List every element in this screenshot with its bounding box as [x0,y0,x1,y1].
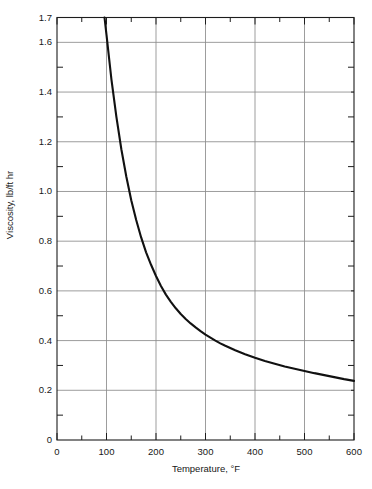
y-tick-label: 1.0 [39,187,52,197]
y-tick-label: 1.7 [39,13,52,23]
y-axis-label: Viscosity, lb/ft hr [4,171,15,239]
y-tick-label: 1.4 [39,87,52,97]
x-tick-label: 200 [148,447,164,457]
vertical-gridlines [107,18,305,441]
y-tick-label: 0.2 [39,386,52,396]
x-tick-label: 100 [99,447,115,457]
y-tick-label: 0 [47,435,52,445]
x-tick-label: 400 [247,447,263,457]
x-tick-label: 600 [346,447,362,457]
viscosity-curve [105,18,354,381]
y-tick-label: 1.6 [39,38,52,48]
viscosity-temperature-chart: 00.20.40.60.81.01.21.41.61.7 01002003004… [0,0,372,489]
x-tick-label: 300 [198,447,214,457]
plot-canvas [0,0,372,489]
x-axis-label: Temperature, °F [172,463,240,474]
y-tick-label: 0.6 [39,286,52,296]
x-tick-label: 500 [297,447,313,457]
y-tick-label: 0.8 [39,236,52,246]
x-tick-label: 0 [54,447,59,457]
y-tick-label: 0.4 [39,336,52,346]
y-tick-label: 1.2 [39,137,52,147]
